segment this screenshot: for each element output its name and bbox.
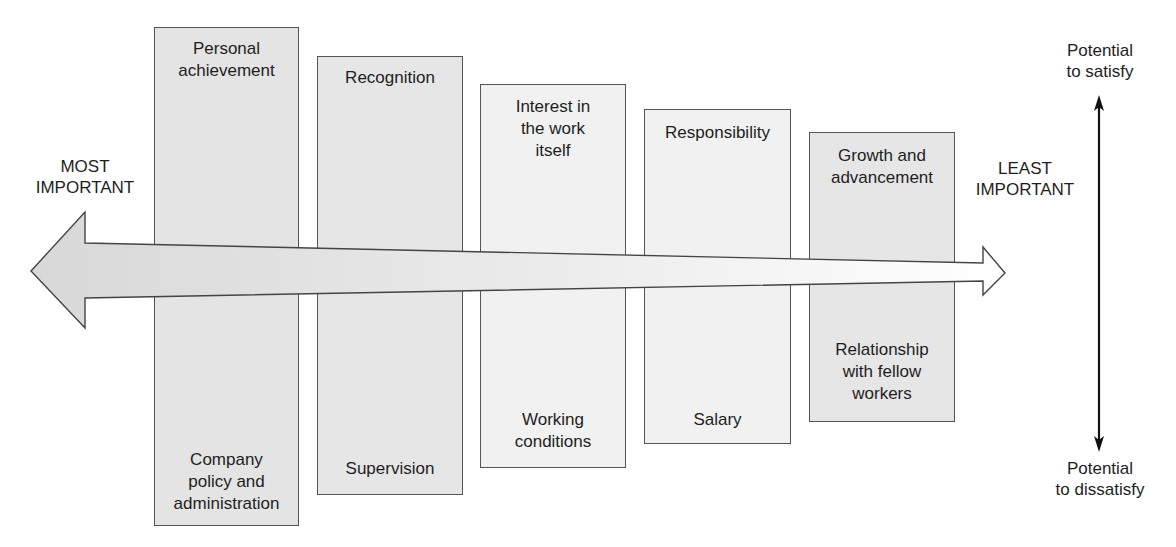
double-arrow-icon [31, 212, 1005, 328]
potential-to-satisfy-label: Potential to satisfy [1040, 40, 1160, 82]
potential-to-dissatisfy-label: Potential to dissatisfy [1032, 458, 1168, 500]
most-important-label: MOST IMPORTANT [14, 156, 156, 198]
least-important-label: LEAST IMPORTANT [955, 158, 1095, 200]
importance-arrow [0, 0, 1176, 547]
